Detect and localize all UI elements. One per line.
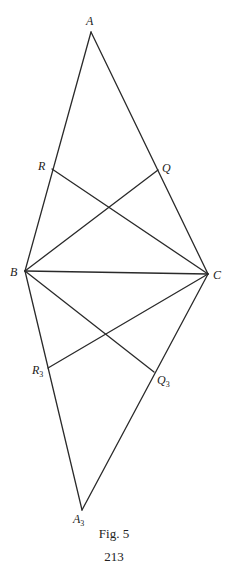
vertex-label-q: Q bbox=[162, 161, 171, 175]
vertex-label-c: C bbox=[213, 268, 222, 282]
figure-caption: Fig. 5 bbox=[0, 526, 228, 542]
vertex-label-q3: Q3 bbox=[157, 373, 170, 389]
page-number: 213 bbox=[0, 549, 228, 565]
segment-b-q bbox=[25, 170, 158, 271]
vertex-label-a: A bbox=[85, 14, 94, 28]
segment-a-c bbox=[91, 32, 208, 274]
segment-r3-c bbox=[48, 274, 208, 368]
segment-a-b bbox=[25, 32, 91, 271]
geometry-figure: ABCRQR3Q3A3 bbox=[0, 0, 228, 571]
vertex-label-r: R bbox=[37, 159, 46, 173]
figure-segments bbox=[25, 32, 208, 510]
segment-b-a3 bbox=[25, 271, 82, 510]
segment-r-c bbox=[52, 169, 208, 274]
segment-b-c bbox=[25, 271, 208, 274]
segment-c-a3 bbox=[82, 274, 208, 510]
segment-b-q3 bbox=[25, 271, 154, 372]
vertex-label-r3: R3 bbox=[31, 363, 43, 379]
vertex-label-b: B bbox=[10, 265, 18, 279]
